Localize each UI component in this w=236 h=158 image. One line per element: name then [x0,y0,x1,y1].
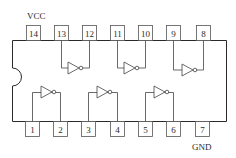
pin-label-8: 8 [201,29,206,39]
pin-label-1: 1 [30,125,35,135]
pin-label-3: 3 [86,125,91,135]
pin-label-10: 10 [141,29,151,39]
pin-label-2: 2 [58,125,63,135]
inverter-gate-3-4 [89,86,118,122]
inverter-gate-9-8 [174,41,204,77]
vcc-label: VCC [27,11,46,21]
pin-label-13: 13 [57,29,67,39]
pin-label-6: 6 [171,125,176,135]
pin-label-5: 5 [143,125,148,135]
chip-body [13,41,227,122]
inverter-gate-11-10 [118,41,146,75]
pin-label-12: 12 [85,29,94,39]
pin-label-7: 7 [200,125,205,135]
inverter-gate-5-6 [146,86,174,122]
pin-label-14: 14 [29,29,39,39]
ic-pinout-diagram: 14 13 12 11 10 9 8 1 2 3 4 5 6 7 VCC GND [0,0,236,158]
pin-label-9: 9 [171,29,176,39]
pin-label-4: 4 [115,125,120,135]
inverter-gate-1-2 [33,86,61,122]
pin-label-11: 11 [113,29,122,39]
gnd-label: GND [192,142,212,152]
inverter-gate-13-12 [62,41,90,75]
